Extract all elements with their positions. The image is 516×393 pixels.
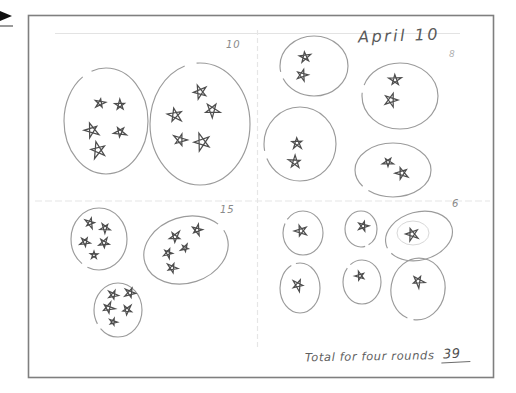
date-label: April 10: [358, 27, 441, 46]
star-icon: [168, 264, 178, 273]
left-margin-arrow-icon: [0, 11, 13, 27]
total-label: Total for four rounds: [305, 348, 435, 364]
star-icon: [389, 75, 402, 85]
counting-circle: [71, 208, 127, 270]
star-icon: [385, 93, 398, 107]
star-icon: [206, 104, 221, 118]
counting-circle: [343, 260, 381, 304]
total-line: Total for four rounds39: [305, 347, 470, 367]
star-icon: [292, 138, 302, 149]
star-icon: [181, 244, 189, 252]
star-icon: [109, 291, 119, 300]
round-2-count-label: 8: [449, 50, 456, 59]
star-icon: [297, 69, 308, 81]
star-icon: [99, 238, 109, 248]
star-icon: [123, 305, 132, 315]
counting-circle: [94, 283, 142, 337]
counting-circle: [362, 63, 438, 129]
star-icon: [91, 142, 105, 159]
star-icon: [164, 249, 173, 259]
star-icon: [395, 168, 408, 180]
star-icon: [413, 276, 425, 288]
star-icon: [95, 99, 106, 107]
star-icon: [294, 225, 306, 236]
round-1-count-label: 10: [226, 40, 241, 50]
star-icon: [167, 108, 181, 121]
star-icon: [194, 133, 209, 151]
star-icon: [299, 52, 311, 62]
counting-circle: [150, 63, 250, 185]
star-icon: [355, 271, 364, 280]
star-icon: [85, 218, 94, 229]
star-icon: [193, 224, 203, 235]
counting-circle: [386, 254, 450, 324]
round-4-count-label: 6: [452, 199, 459, 209]
star-icon: [84, 123, 99, 138]
star-icon: [288, 155, 300, 167]
star-icon: [100, 224, 110, 234]
star-icon: [193, 85, 206, 99]
star-icon: [293, 280, 303, 292]
star-icon: [90, 251, 98, 258]
star-icon: [382, 158, 393, 166]
star-icon: [174, 134, 188, 146]
star-icon: [115, 99, 125, 109]
star-icon: [104, 302, 116, 313]
total-value: 39: [440, 345, 470, 363]
circles-layer: [64, 36, 458, 337]
star-icon: [406, 229, 419, 242]
star-icon: [113, 128, 126, 137]
star-tally-drawing: [0, 0, 516, 393]
counting-circle: [283, 211, 323, 255]
star-icon: [359, 221, 369, 231]
counting-circle: [64, 68, 148, 174]
star-icon: [80, 238, 90, 247]
star-icon: [169, 231, 180, 242]
scanned-worksheet-page: April 10 10 8 15 6 Total for four rounds…: [0, 0, 516, 393]
round-3-count-label: 15: [220, 205, 235, 215]
counting-circle: [355, 143, 431, 197]
star-icon: [110, 318, 118, 325]
counting-circle: [280, 36, 348, 96]
